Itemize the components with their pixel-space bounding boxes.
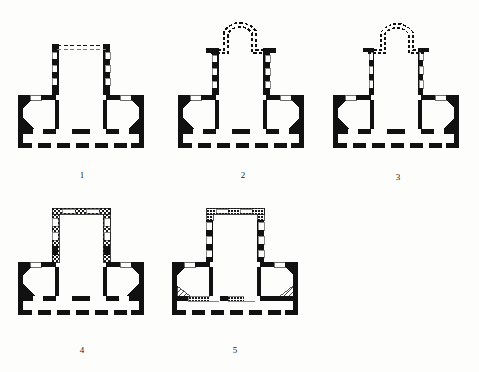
plan-3-label: 3 [396, 172, 401, 182]
plan-2-label: 2 [241, 170, 246, 180]
plan-5-label: 5 [233, 345, 238, 355]
plan-1-label: 1 [80, 170, 85, 180]
plan-series-svg: 1 [0, 0, 479, 372]
figure-background [0, 0, 479, 372]
floor-plan-figure: 1 [0, 0, 479, 372]
plan-4-label: 4 [80, 345, 85, 355]
